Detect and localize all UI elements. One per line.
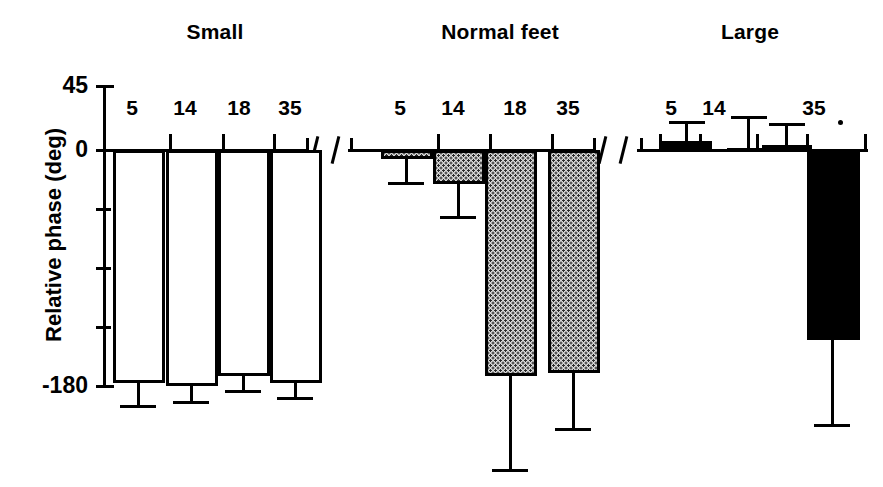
- error-bar-stem-large-14: [747, 117, 750, 150]
- label-artifact-dot: [838, 120, 843, 125]
- bar-label-large-35: 35: [786, 96, 842, 120]
- error-bar-cap-normal-5: [388, 182, 424, 185]
- error-bar-cap-normal-18: [492, 469, 528, 472]
- axis-break-1-slash-b: [331, 136, 341, 164]
- bar-label-normal-14: 14: [425, 96, 481, 120]
- bar-label-small-18: 18: [211, 96, 267, 120]
- figure-canvas: Small Normal feet Large Relative phase (…: [0, 0, 883, 487]
- error-bar-cap-normal-14: [440, 216, 476, 219]
- group-title-large: Large: [690, 20, 810, 44]
- error-bar-stem-normal-35: [572, 373, 575, 430]
- x-tick: [273, 134, 276, 150]
- error-bar-cap-small-35: [277, 397, 313, 400]
- y-tick-m135: [96, 326, 111, 329]
- x-tick: [437, 134, 440, 150]
- bar-small-14[interactable]: [166, 150, 218, 386]
- y-tick-m90: [96, 267, 111, 270]
- error-bar-stem-large-35: [831, 340, 834, 426]
- error-bar-cap-large-18: [769, 123, 805, 126]
- bar-label-small-14: 14: [157, 96, 213, 120]
- bar-normal-35[interactable]: [548, 150, 600, 373]
- bar-normal-14[interactable]: [433, 150, 485, 184]
- y-tick-label-minus180: -180: [0, 372, 88, 399]
- y-tick-m180: [96, 385, 114, 388]
- y-tick-m45: [96, 208, 111, 211]
- bar-small-18[interactable]: [218, 150, 270, 376]
- error-bar-stem-large-5: [685, 122, 688, 144]
- x-tick: [222, 134, 225, 150]
- error-bar-stem-large-18: [785, 124, 788, 148]
- bar-label-normal-5: 5: [373, 96, 427, 120]
- x-tick: [864, 134, 867, 150]
- error-bar-cap-large-5: [669, 121, 705, 124]
- bar-label-normal-18: 18: [487, 96, 543, 120]
- y-tick-45: [96, 85, 114, 88]
- error-bar-cap-normal-35: [555, 428, 591, 431]
- error-bar-cap-large-14: [731, 116, 767, 119]
- x-tick: [350, 138, 353, 151]
- bar-large-35[interactable]: [807, 150, 860, 340]
- bar-normal-5[interactable]: [381, 150, 433, 159]
- group-title-small: Small: [150, 20, 280, 44]
- bar-label-small-5: 5: [105, 96, 159, 120]
- error-bar-cap-small-5: [120, 405, 156, 408]
- y-axis-label: Relative phase (deg): [41, 85, 67, 385]
- bar-label-normal-35: 35: [540, 96, 596, 120]
- error-bar-cap-large-35: [814, 424, 850, 427]
- y-tick-label-0: 0: [20, 136, 88, 163]
- bar-normal-18[interactable]: [485, 150, 537, 376]
- x-tick: [551, 134, 554, 150]
- x-tick: [169, 134, 172, 150]
- error-bar-stem-normal-14: [457, 184, 460, 218]
- error-bar-stem-normal-5: [405, 159, 408, 184]
- error-bar-stem-normal-18: [509, 376, 512, 471]
- axis-break-2-slash-b: [619, 136, 629, 164]
- x-tick: [489, 134, 492, 150]
- error-bar-stem-small-5: [137, 383, 140, 407]
- bar-small-5[interactable]: [113, 150, 165, 383]
- y-tick-label-45: 45: [20, 72, 88, 99]
- error-bar-cap-small-14: [173, 401, 209, 404]
- x-tick: [640, 138, 643, 151]
- group-title-normal-feet: Normal feet: [415, 20, 585, 44]
- bar-small-35[interactable]: [270, 150, 322, 383]
- error-bar-cap-small-18: [225, 390, 261, 393]
- y-axis-line: [103, 85, 106, 388]
- bar-label-small-35: 35: [262, 96, 318, 120]
